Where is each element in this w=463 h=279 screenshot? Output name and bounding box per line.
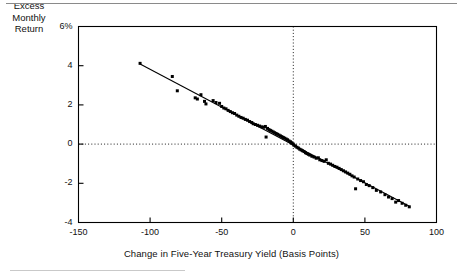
data-point (204, 102, 207, 105)
data-point (383, 193, 386, 196)
x-axis-title: Change in Five-Year Treasury Yield (Basi… (0, 248, 463, 259)
data-point (365, 183, 368, 186)
x-tick-label: 0 (273, 227, 313, 237)
data-point (176, 89, 179, 92)
data-point (265, 136, 268, 139)
x-tick-label: -50 (202, 227, 242, 237)
y-tick-label: 2 (47, 99, 73, 109)
y-tick-label: 0 (47, 138, 73, 148)
data-point (394, 201, 397, 204)
data-point (199, 93, 202, 96)
data-point (404, 204, 407, 207)
data-point (139, 62, 142, 65)
data-point (379, 190, 382, 193)
data-point (362, 180, 365, 183)
y-tick-label: 4 (47, 60, 73, 70)
data-point (196, 98, 199, 101)
data-point (375, 189, 378, 192)
x-tick-label: 100 (417, 227, 457, 237)
data-point (218, 102, 221, 105)
x-tick-label: -150 (59, 227, 99, 237)
data-point (368, 184, 371, 187)
data-point (353, 176, 356, 179)
data-point (371, 186, 374, 189)
data-point (325, 158, 328, 161)
data-point (387, 196, 390, 199)
figure-container: Excess Monthly Return Change in Five-Yea… (0, 0, 463, 279)
data-point (391, 197, 394, 200)
data-point (397, 199, 400, 202)
data-point (171, 75, 174, 78)
y-tick-label: -2 (47, 177, 73, 187)
data-point (408, 205, 411, 208)
x-tick-label: -100 (130, 227, 170, 237)
data-point (359, 179, 362, 182)
data-point (214, 101, 217, 104)
data-point (401, 202, 404, 205)
y-tick-label: 6% (47, 21, 73, 31)
x-tick-label: 50 (345, 227, 385, 237)
y-tick-label: -4 (47, 217, 73, 227)
data-point (212, 99, 215, 102)
data-point (354, 187, 357, 190)
data-point (356, 177, 359, 180)
